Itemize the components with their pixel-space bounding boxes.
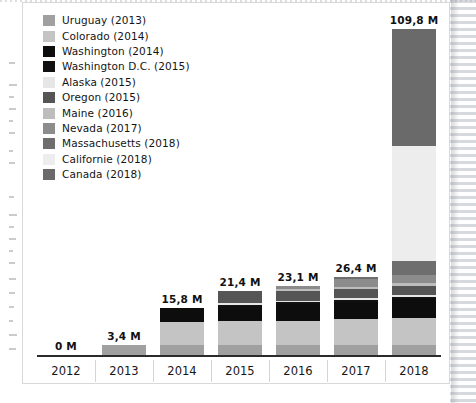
- bar-segment[interactable]: [276, 304, 320, 321]
- bar-value-label: 26,4 M: [335, 262, 376, 274]
- bar-value-label: 23,1 M: [277, 271, 318, 283]
- bar-segment[interactable]: [218, 345, 262, 355]
- bar-segment[interactable]: [392, 345, 436, 355]
- bar-segment[interactable]: [334, 279, 378, 287]
- x-axis-tick-2017: 2017: [327, 359, 385, 383]
- x-axis-tick-2016: 2016: [269, 359, 327, 383]
- edge-text-fragment: [9, 196, 14, 198]
- bar-segment[interactable]: [334, 302, 378, 320]
- edge-text-fragment: [9, 348, 16, 350]
- bar-slot-2018: 109,8 M: [385, 15, 443, 355]
- chart-card: Uruguay (2013)Colorado (2014)Washington …: [22, 2, 450, 384]
- x-axis-tick-2015: 2015: [211, 359, 269, 383]
- edge-text-fragment: [9, 120, 13, 122]
- edge-text-fragment: [9, 108, 16, 110]
- page-root: Uruguay (2013)Colorado (2014)Washington …: [0, 0, 476, 403]
- edge-text-fragment: [9, 262, 15, 264]
- bar-segment[interactable]: [392, 146, 436, 262]
- bar-segment[interactable]: [218, 291, 262, 303]
- edge-text-fragment: [9, 62, 15, 64]
- bar-segment[interactable]: [276, 291, 320, 301]
- bar-segment[interactable]: [160, 308, 204, 322]
- bar-segment[interactable]: [218, 306, 262, 321]
- bar-segment[interactable]: [160, 345, 204, 355]
- bar-segment[interactable]: [334, 289, 378, 298]
- bar-segment[interactable]: [392, 318, 436, 345]
- edge-text-fragment: [9, 150, 13, 152]
- bar-segment[interactable]: [276, 321, 320, 345]
- bar-slot-2016: 23,1 M: [269, 15, 327, 355]
- bar-segment[interactable]: [392, 261, 436, 275]
- bar-slot-2013: 3,4 M: [95, 15, 153, 355]
- x-axis-line: [37, 355, 441, 357]
- bar-segment[interactable]: [276, 345, 320, 355]
- bar-value-label: 21,4 M: [219, 276, 260, 288]
- right-edge-scroll-strip[interactable]: [450, 0, 476, 403]
- bar-segment[interactable]: [392, 29, 436, 146]
- bar-slot-2017: 26,4 M: [327, 15, 385, 355]
- left-edge-text-fragments: [0, 0, 22, 403]
- edge-text-fragment: [9, 84, 17, 86]
- stacked-bar[interactable]: [276, 286, 320, 355]
- x-axis-tick-2018: 2018: [385, 359, 443, 383]
- x-axis-tick-2012: 2012: [37, 359, 95, 383]
- bar-slot-2014: 15,8 M: [153, 15, 211, 355]
- edge-text-fragment: [9, 132, 15, 134]
- bar-value-label: 0 M: [55, 340, 77, 352]
- stacked-bar[interactable]: [218, 291, 262, 355]
- bar-slot-2015: 21,4 M: [211, 15, 269, 355]
- bar-segment[interactable]: [334, 345, 378, 355]
- bar-segment[interactable]: [392, 286, 436, 296]
- edge-text-fragment: [9, 96, 14, 98]
- plot-area: 0 M3,4 M15,8 M21,4 M23,1 M26,4 M109,8 M: [37, 15, 443, 355]
- bar-value-label: 109,8 M: [390, 14, 439, 26]
- stacked-bar[interactable]: [392, 29, 436, 355]
- bar-segment[interactable]: [102, 345, 146, 355]
- edge-text-fragment: [9, 226, 14, 228]
- x-axis-labels: 2012201320142015201620172018: [37, 359, 443, 383]
- x-axis-tick-2014: 2014: [153, 359, 211, 383]
- stacked-bar[interactable]: [102, 345, 146, 355]
- x-axis-tick-2013: 2013: [95, 359, 153, 383]
- bar-value-label: 3,4 M: [107, 330, 141, 342]
- bar-slot-2012: 0 M: [37, 15, 95, 355]
- edge-text-fragment: [9, 320, 13, 322]
- edge-text-fragment: [9, 278, 16, 280]
- chart-plot: 0 M3,4 M15,8 M21,4 M23,1 M26,4 M109,8 M: [37, 15, 441, 383]
- bar-segment[interactable]: [218, 321, 262, 344]
- bar-segment[interactable]: [392, 275, 436, 283]
- edge-text-fragment: [9, 162, 15, 164]
- edge-text-fragment: [9, 238, 16, 240]
- edge-text-fragment: [9, 214, 17, 216]
- edge-text-fragment: [9, 292, 15, 294]
- edge-text-fragment: [9, 250, 13, 252]
- bar-segment[interactable]: [160, 322, 204, 345]
- edge-text-fragment: [9, 306, 14, 308]
- bar-segment[interactable]: [392, 299, 436, 318]
- bar-segment[interactable]: [334, 319, 378, 345]
- bar-value-label: 15,8 M: [161, 293, 202, 305]
- edge-text-fragment: [9, 334, 17, 336]
- stacked-bar[interactable]: [334, 277, 378, 355]
- stacked-bar[interactable]: [160, 308, 204, 355]
